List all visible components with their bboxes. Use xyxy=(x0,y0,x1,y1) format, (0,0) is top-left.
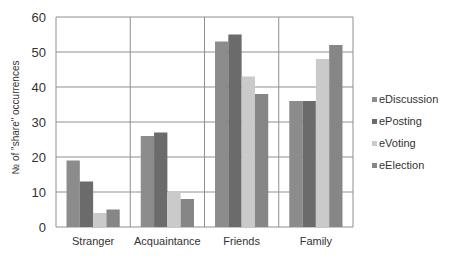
bar-evoting-friends xyxy=(242,77,255,228)
legend-item: eDiscussion xyxy=(372,88,438,110)
y-tick-label: 60 xyxy=(32,10,46,25)
y-axis-label: № of "share" occurrences xyxy=(10,43,21,193)
bar-evoting-stranger xyxy=(93,213,106,227)
bar-ediscussion-acquaintance xyxy=(141,136,154,227)
bar-eelection-family xyxy=(329,45,342,227)
legend-swatch-icon xyxy=(372,141,377,146)
y-tick-label: 0 xyxy=(39,220,46,235)
legend-swatch-icon xyxy=(372,163,377,168)
bar-eposting-stranger xyxy=(80,182,93,228)
bar-eelection-acquaintance xyxy=(181,199,194,227)
legend-label: ePosting xyxy=(379,115,422,127)
legend-swatch-icon xyxy=(372,119,377,124)
y-tick-label: 10 xyxy=(32,185,46,200)
bar-evoting-acquaintance xyxy=(167,192,180,227)
x-axis-labels: StrangerAcquaintanceFriendsFamily xyxy=(72,235,333,247)
bar-eposting-family xyxy=(303,101,316,227)
legend-label: eVoting xyxy=(379,137,416,149)
legend-label: eDiscussion xyxy=(379,93,438,105)
x-tick-label: Friends xyxy=(223,235,260,247)
y-tick-label: 50 xyxy=(32,45,46,60)
bar-eposting-friends xyxy=(228,35,241,228)
bar-eelection-stranger xyxy=(106,210,119,228)
x-tick-label: Family xyxy=(300,235,333,247)
y-tick-label: 20 xyxy=(32,150,46,165)
y-tick-label: 30 xyxy=(32,115,46,130)
legend-item: ePosting xyxy=(372,110,438,132)
bar-ediscussion-stranger xyxy=(67,161,80,228)
legend-label: eElection xyxy=(379,159,424,171)
y-axis-ticks: 0102030405060 xyxy=(32,10,46,235)
legend-item: eElection xyxy=(372,154,438,176)
bar-ediscussion-friends xyxy=(215,42,228,228)
bar-ediscussion-family xyxy=(289,101,302,227)
y-tick-label: 40 xyxy=(32,80,46,95)
bar-eelection-friends xyxy=(255,94,268,227)
bar-evoting-family xyxy=(316,59,329,227)
legend-swatch-icon xyxy=(372,97,377,102)
legend-item: eVoting xyxy=(372,132,438,154)
bar-eposting-acquaintance xyxy=(154,133,167,228)
x-tick-label: Stranger xyxy=(72,235,115,247)
legend: eDiscussionePostingeVotingeElection xyxy=(372,88,438,176)
x-tick-label: Acquaintance xyxy=(134,235,201,247)
